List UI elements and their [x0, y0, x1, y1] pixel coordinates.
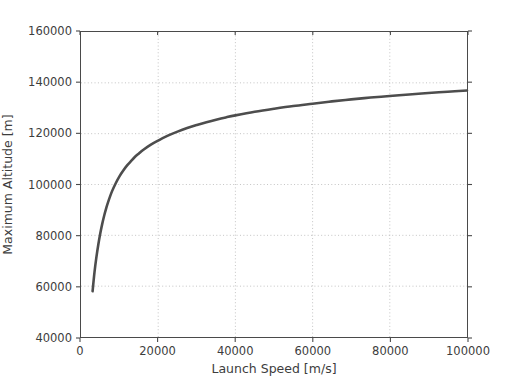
- x-tick-label: 80000: [372, 344, 409, 358]
- series-line-maximum-altitude: [93, 90, 467, 291]
- x-tick-label: 0: [76, 344, 83, 358]
- chart-figure: 400006000080000100000120000140000160000 …: [0, 0, 510, 391]
- plot-area: [80, 31, 468, 338]
- x-tick-label: 40000: [217, 344, 254, 358]
- x-tick-label: 20000: [139, 344, 176, 358]
- x-tick-label: 60000: [295, 344, 332, 358]
- x-tick-label: 100000: [446, 344, 490, 358]
- x-axis-title: Launch Speed [m/s]: [80, 361, 468, 376]
- y-axis-title: Maximum Altitude [m]: [0, 31, 22, 338]
- data-series-layer: [81, 32, 467, 337]
